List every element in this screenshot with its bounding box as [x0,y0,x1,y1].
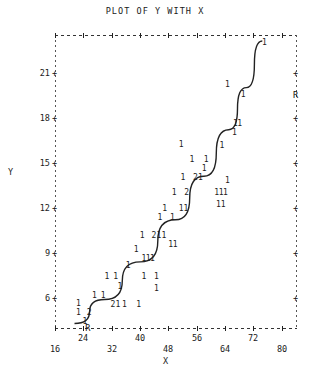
data-point: 1 [82,318,87,326]
data-point: 1 [162,205,167,213]
data-point: 1 [225,81,230,89]
x-tick-24 [83,33,84,38]
page-title: PLOT OF Y WITH X [0,6,310,16]
data-point: 1 [140,232,145,240]
data-point: 1 [233,120,238,128]
data-point: 1 [179,141,184,149]
data-point: 1 [170,214,175,222]
x-tick-label-32: 32 [102,345,122,354]
data-point: 1 [154,273,159,281]
axis-bottom [55,328,297,329]
y-tick-left-12: + [52,204,57,213]
axis-right [296,35,297,328]
y-tick-right-6: + [293,294,298,303]
data-point: 1 [104,273,109,281]
x-tick-40 [140,326,141,331]
y-tick-right-21: + [293,69,298,78]
data-point: 1 [221,201,226,209]
axis-top [55,35,297,36]
data-point: 1 [189,156,194,164]
data-point: 1 [198,174,203,182]
x-tick-16 [55,326,56,331]
x-tick-48 [168,33,169,38]
data-point: 1 [172,189,177,197]
x-tick-label-24: 24 [73,334,93,343]
y-tick-left-15: + [52,159,57,168]
y-tick-label-18: 18 [28,114,50,123]
x-tick-32 [112,33,113,38]
data-point: 1 [76,309,81,317]
data-point: 1 [136,301,141,309]
data-point: 1 [220,142,225,150]
y-tick-right-18: + [293,114,298,123]
data-point: 2 [184,189,189,197]
x-tick-label-48: 48 [158,345,178,354]
data-point: 1 [181,174,186,182]
x-tick-72 [253,326,254,331]
x-tick-label-16: 16 [45,345,65,354]
x-tick-56 [197,33,198,38]
data-point: 1 [113,273,118,281]
x-tick-label-80: 80 [272,345,292,354]
x-tick-label-56: 56 [187,334,207,343]
x-tick-72 [253,33,254,38]
y-tick-right-15: + [293,159,298,168]
data-point: 1 [183,205,188,213]
character-plot: PLOT OF Y WITH X 162432404856647280 ++++… [0,0,310,375]
data-point: 1 [158,214,163,222]
data-point: 2 [87,309,92,317]
y-tick-left-21: + [52,69,57,78]
data-point: 1 [202,165,207,173]
y-axis-title: Y [8,168,13,177]
x-tick-48 [168,326,169,331]
axis-left [55,35,56,328]
data-point: 1 [225,177,230,185]
y-tick-left-18: + [52,114,57,123]
x-tick-56 [197,326,198,331]
y-tick-label-9: 9 [28,249,50,258]
y-tick-right-9: + [293,249,298,258]
y-tick-right-12: + [293,204,298,213]
data-point: 1 [223,189,228,197]
x-tick-80 [282,326,283,331]
y-tick-label-12: 12 [28,204,50,213]
data-point: 1 [92,292,97,300]
x-tick-40 [140,33,141,38]
x-tick-64 [225,326,226,331]
x-tick-24 [83,326,84,331]
fit-curve [0,0,310,375]
regression-marker-right: R [293,91,298,100]
data-point: 1 [142,273,147,281]
data-point: 1 [126,262,131,270]
data-point: 1 [122,301,127,309]
data-point: 1 [204,156,209,164]
x-tick-16 [55,33,56,38]
x-tick-label-72: 72 [243,334,263,343]
y-tick-left-6: + [52,294,57,303]
data-point: 1 [115,301,120,309]
y-tick-label-21: 21 [28,69,50,78]
y-tick-left-9: + [52,249,57,258]
data-point: 1 [150,255,155,263]
x-tick-label-64: 64 [215,345,235,354]
y-tick-label-6: 6 [28,294,50,303]
x-tick-80 [282,33,283,38]
data-point: 1 [134,246,139,254]
data-point: 1 [161,232,166,240]
data-point: 1 [173,241,178,249]
x-tick-32 [112,326,113,331]
data-point: 1 [237,120,242,128]
y-tick-label-15: 15 [28,159,50,168]
data-point: 1 [232,129,237,137]
x-tick-64 [225,33,226,38]
data-point: 1 [118,283,123,291]
data-point: 1 [241,91,246,99]
x-tick-label-40: 40 [130,334,150,343]
data-point: 1 [101,292,106,300]
data-point: 1 [76,300,81,308]
data-point: 1 [154,285,159,293]
data-point: 1 [262,39,267,47]
x-axis-title: X [163,357,168,366]
